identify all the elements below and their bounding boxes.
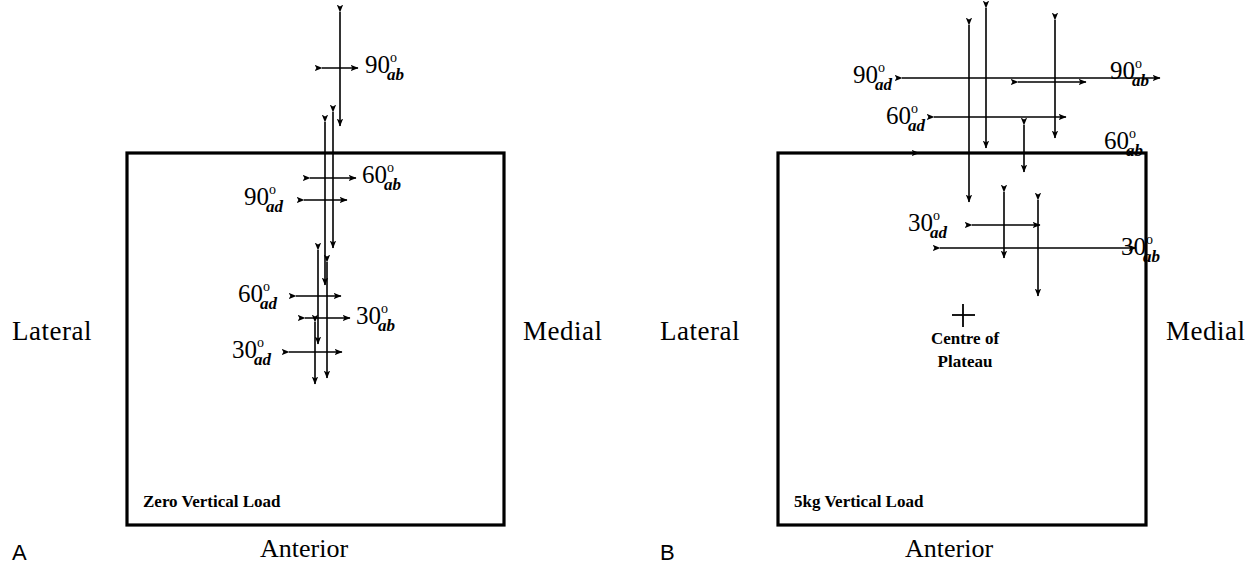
- label-30ad-panel-b: 30oad: [908, 210, 957, 235]
- label-angle-subscript: ad: [930, 223, 947, 242]
- label-angle-subscript: ab: [384, 175, 401, 194]
- label-90ab-panel-b: 90oab: [1110, 58, 1159, 83]
- degree-sign-icon: o: [263, 279, 270, 294]
- panel-a-letter: A: [12, 540, 27, 566]
- label-90ad-panel-a: 90oad: [244, 184, 293, 209]
- label-30ab-panel-a: 30oab: [356, 303, 405, 328]
- panel-a-anterior-label: Anterior: [260, 534, 348, 564]
- panel-b-letter: B: [660, 540, 675, 566]
- centre-of-plateau-line1: Centre of: [895, 328, 1035, 351]
- degree-sign-icon: o: [878, 60, 885, 75]
- label-angle-subscript: ad: [254, 350, 271, 369]
- degree-sign-icon: o: [387, 160, 394, 175]
- label-angle-subscript: ad: [260, 294, 277, 313]
- label-30ab-panel-b: 30oab: [1121, 234, 1170, 259]
- degree-sign-icon: o: [381, 301, 388, 316]
- label-angle-subscript: ab: [1132, 71, 1149, 90]
- label-angle-subscript: ad: [908, 116, 925, 135]
- label-angle-subscript: ab: [387, 65, 404, 84]
- degree-sign-icon: o: [933, 208, 940, 223]
- label-angle-subscript: ab: [378, 316, 395, 335]
- panel-a-medial-label: Medial: [523, 316, 602, 347]
- degree-sign-icon: o: [257, 335, 264, 350]
- panel-a-markers: [289, 12, 358, 384]
- panel-b-load-label: 5kg Vertical Load: [794, 492, 923, 512]
- centre-of-plateau-cross: [952, 304, 975, 327]
- degree-sign-icon: o: [1146, 232, 1153, 247]
- panel-a-load-label: Zero Vertical Load: [143, 492, 281, 512]
- label-angle-subscript: ad: [875, 75, 892, 94]
- label-60ad-panel-b: 60oad: [886, 103, 935, 128]
- label-60ab-panel-b: 60oab: [1104, 128, 1153, 153]
- label-angle-subscript: ad: [266, 197, 283, 216]
- panel-b-medial-label: Medial: [1166, 316, 1245, 347]
- label-60ad-panel-a: 60oad: [238, 281, 287, 306]
- label-60ab-panel-a: 60oab: [362, 162, 411, 187]
- label-angle-subscript: ab: [1126, 141, 1143, 160]
- degree-sign-icon: o: [1135, 56, 1142, 71]
- figure-svg: [0, 0, 1254, 574]
- label-angle-subscript: ab: [1143, 247, 1160, 266]
- centre-of-plateau-label: Centre of Plateau: [895, 328, 1035, 374]
- panel-b-lateral-label: Lateral: [660, 316, 740, 347]
- degree-sign-icon: o: [911, 101, 918, 116]
- label-90ad-panel-b: 90oad: [853, 62, 902, 87]
- centre-of-plateau-line2: Plateau: [895, 351, 1035, 374]
- figure-root: 90oab 60oab 90oad 60oad 30oab 30oad Late…: [0, 0, 1254, 574]
- degree-sign-icon: o: [390, 50, 397, 65]
- panel-b-anterior-label: Anterior: [905, 534, 993, 564]
- label-30ad-panel-a: 30oad: [232, 337, 281, 362]
- panel-a-lateral-label: Lateral: [12, 316, 92, 347]
- label-90ab-panel-a: 90oab: [365, 52, 414, 77]
- degree-sign-icon: o: [1129, 126, 1136, 141]
- degree-sign-icon: o: [269, 182, 276, 197]
